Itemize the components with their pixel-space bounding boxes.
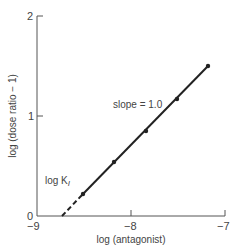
data-point xyxy=(206,64,210,68)
data-point xyxy=(175,97,179,101)
data-point xyxy=(81,192,85,196)
x-tick-label-minus8: −8 xyxy=(124,220,137,232)
logk-annotation: log KI xyxy=(45,175,71,188)
logk-subscript: I xyxy=(68,179,71,188)
extrapolation-dashed-line xyxy=(62,194,83,216)
data-point xyxy=(112,160,116,164)
x-axis-label: log (antagonist) xyxy=(97,234,166,245)
slope-annotation: slope = 1.0 xyxy=(113,99,163,110)
data-point xyxy=(144,129,148,133)
x-tick-label-minus9: −9 xyxy=(27,220,40,232)
y-axis-label: log (dose ratio − 1) xyxy=(7,74,18,158)
y-tick-label-2: 2 xyxy=(27,10,33,22)
y-tick-label-1: 1 xyxy=(28,110,34,122)
x-tick-label-minus7: −7 xyxy=(217,220,230,232)
axes xyxy=(37,16,225,216)
logk-prefix: log K xyxy=(45,175,68,186)
schild-plot-chart: 2 1 0 −9 −8 −7 log (antagonist) log (dos… xyxy=(0,0,241,252)
